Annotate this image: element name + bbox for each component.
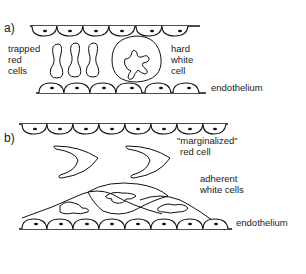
label-adherent-2: white cells: [199, 184, 244, 195]
label-trapped-3: cells: [8, 65, 27, 76]
label-marginalized-2: red cell: [180, 146, 211, 157]
label-marginalized-1: "marginalized": [177, 135, 238, 146]
panel-b-top-endothelium: [19, 124, 228, 134]
label-trapped-2: red: [8, 54, 22, 65]
label-hard-3: cell: [171, 65, 185, 76]
hard-white-cell: [112, 36, 161, 82]
label-hard-1: hard: [171, 43, 190, 54]
panel-a-top-endothelium: [30, 26, 200, 36]
label-trapped-1: trapped: [8, 43, 40, 54]
trapped-red-cells: [50, 43, 99, 78]
label-adherent-1: adherent: [200, 173, 238, 184]
panel-b-bottom-endothelium: [19, 219, 232, 229]
label-endothelium-b: endothelium: [236, 217, 288, 228]
panel-a-bottom-endothelium: [36, 83, 206, 93]
panel-b-label: b): [4, 131, 15, 145]
marginalized-red-cells: [54, 146, 170, 178]
label-endothelium-a: endothelium: [211, 82, 263, 93]
panel-a-label: a): [4, 21, 15, 35]
label-hard-2: white: [170, 54, 193, 65]
blood-vessel-diagram: a): [0, 0, 306, 274]
